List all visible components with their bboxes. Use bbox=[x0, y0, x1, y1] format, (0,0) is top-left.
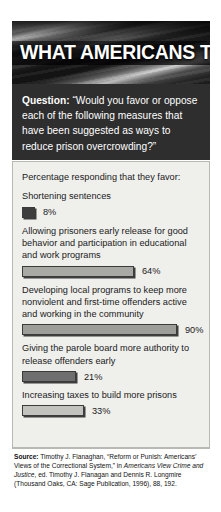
bar-fill bbox=[22, 324, 177, 335]
bar-item: Allowing prisoners early release for goo… bbox=[22, 225, 200, 278]
bar-fill bbox=[22, 266, 134, 277]
bar-value: 8% bbox=[43, 207, 56, 217]
bar-item: Giving the parole board more authority t… bbox=[22, 342, 200, 383]
bar-value: 21% bbox=[84, 372, 102, 382]
bar-label: Shortening sentences bbox=[22, 190, 200, 202]
what-americans-think-figure: WHAT AMERICANS THINK Question: “Would yo… bbox=[0, 0, 221, 512]
bar-label: Developing local programs to keep more n… bbox=[22, 284, 200, 321]
source-line-2: , ed. Timothy J. Flanagan and Dennis R. … bbox=[14, 471, 182, 487]
bar-row: 90% bbox=[22, 323, 200, 336]
bar-row: 64% bbox=[22, 265, 200, 278]
bar-fill bbox=[22, 207, 35, 218]
question-block: Question: “Would you favor or oppose eac… bbox=[12, 84, 210, 160]
question-text: Question: “Would you favor or oppose eac… bbox=[22, 93, 200, 154]
bar-label: Increasing taxes to build more prisons bbox=[22, 389, 200, 401]
bar-label: Allowing prisoners early release for goo… bbox=[22, 225, 200, 262]
bar-row: 33% bbox=[22, 404, 200, 417]
bar-value: 33% bbox=[92, 406, 110, 416]
bar-item: Increasing taxes to build more prisons33… bbox=[22, 389, 200, 417]
bar-list: Shortening sentences8%Allowing prisoners… bbox=[22, 190, 200, 417]
page-title: WHAT AMERICANS THINK bbox=[20, 41, 198, 64]
bar-value: 64% bbox=[142, 266, 160, 276]
bar-fill bbox=[22, 371, 76, 382]
banner-top-shade bbox=[12, 21, 210, 37]
bar-row: 21% bbox=[22, 370, 200, 383]
question-label: Question: bbox=[22, 95, 70, 106]
bar-item: Shortening sentences8% bbox=[22, 190, 200, 218]
panel-lead: Percentage responding that they favor: bbox=[22, 171, 200, 183]
source-citation: Source: Timothy J. Flanaghan, “Reform or… bbox=[12, 452, 210, 488]
results-panel: Percentage responding that they favor: S… bbox=[12, 161, 210, 448]
bar-value: 90% bbox=[185, 325, 203, 335]
bar-item: Developing local programs to keep more n… bbox=[22, 284, 200, 337]
bar-row: 8% bbox=[22, 206, 200, 219]
source-label: Source: bbox=[14, 453, 39, 460]
bar-fill bbox=[22, 405, 84, 416]
header-banner: WHAT AMERICANS THINK bbox=[12, 21, 210, 84]
bar-label: Giving the parole board more authority t… bbox=[22, 342, 200, 367]
source-divider bbox=[12, 448, 210, 449]
